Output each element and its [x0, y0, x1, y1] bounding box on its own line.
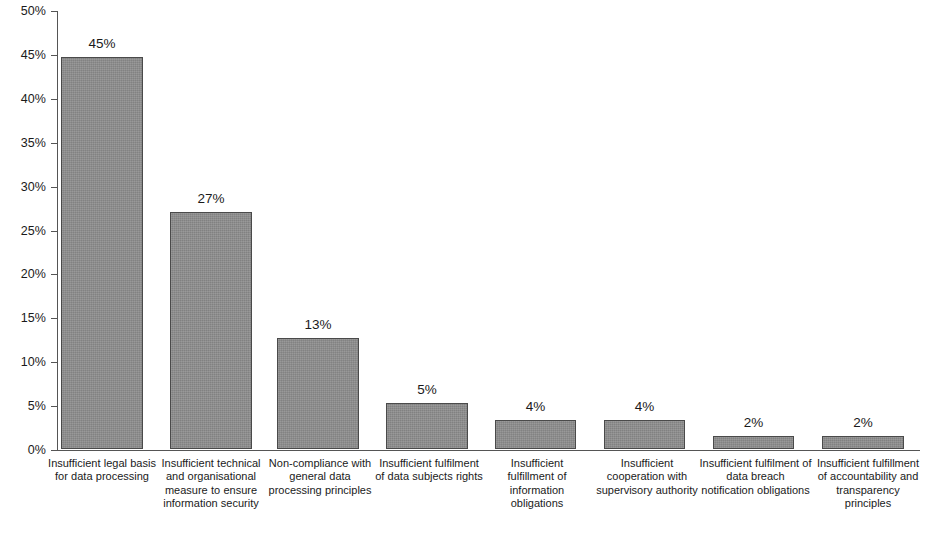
- x-axis-category-label-3: Insufficient fulfilment of data subjects…: [374, 457, 484, 484]
- bar-value-label-2: 13%: [304, 317, 331, 333]
- bar-group-7: 2%: [822, 0, 904, 450]
- bar-group-4: 4%: [495, 0, 576, 450]
- x-axis-category-label-4: Insufficient fulfillment of information …: [486, 457, 588, 511]
- bar-group-6: 2%: [713, 0, 794, 450]
- bar-3[interactable]: [386, 403, 468, 449]
- plot-area: 45% 27% 13% 5% 4% 4% 2% 2%: [0, 0, 927, 450]
- bar-group-1: 27%: [170, 0, 252, 450]
- x-axis-category-label-2: Non-compliance with general data process…: [265, 457, 375, 497]
- bar-value-label-1: 27%: [197, 191, 224, 207]
- x-axis-category-label-0: Insufficient legal basis for data proces…: [47, 457, 157, 484]
- bar-group-0: 45%: [61, 0, 143, 450]
- bar-group-2: 13%: [277, 0, 359, 450]
- bar-7[interactable]: [822, 436, 904, 449]
- bar-6[interactable]: [713, 436, 794, 449]
- x-axis-category-label-7: Insufficient fulfillment of accountabili…: [812, 457, 924, 511]
- bar-value-label-6: 2%: [744, 415, 764, 431]
- bar-0[interactable]: [61, 57, 143, 449]
- bar-value-label-0: 45%: [88, 36, 115, 52]
- bar-4[interactable]: [495, 420, 576, 449]
- bar-value-label-4: 4%: [526, 399, 546, 415]
- bar-value-label-5: 4%: [635, 399, 655, 415]
- bar-value-label-3: 5%: [417, 382, 437, 398]
- x-axis-category-label-1: Insufficient technical and organisationa…: [156, 457, 266, 511]
- bar-group-5: 4%: [604, 0, 685, 450]
- bar-value-label-7: 2%: [853, 415, 873, 431]
- bar-1[interactable]: [170, 212, 252, 449]
- x-axis-line: [57, 450, 920, 451]
- x-axis-category-label-6: Insufficient fulfilment of data breach n…: [699, 457, 812, 497]
- x-axis-category-label-5: Insufficient cooperation with supervisor…: [592, 457, 702, 497]
- bar-5[interactable]: [604, 420, 685, 449]
- bar-chart: 0% 5% 10% 15% 20% 25% 30% 35% 40% 45% 50…: [0, 0, 927, 543]
- bar-group-3: 5%: [386, 0, 468, 450]
- bar-2[interactable]: [277, 338, 359, 449]
